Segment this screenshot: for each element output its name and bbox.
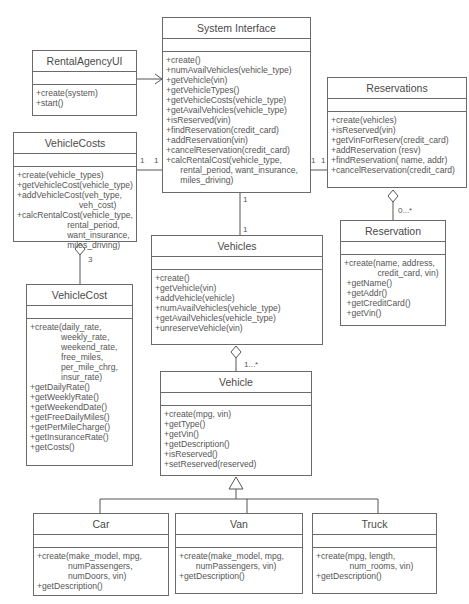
operation: +findReservation( name, addr) <box>331 155 463 165</box>
operation: weekend_rate, <box>30 342 129 352</box>
operation: weekly_rate, <box>30 332 129 342</box>
class-name: Van <box>176 514 302 535</box>
operation: +getVin() <box>164 429 308 439</box>
operation: +getCreditCard() <box>344 298 442 308</box>
class-vehicle-costs: VehicleCosts +create(vehicle_types)+getV… <box>13 132 137 242</box>
operation: +getPerMileCharge() <box>30 422 129 432</box>
operation: +cancelReservation(credit_card) <box>331 165 463 175</box>
operation: want_insurance, <box>17 230 133 240</box>
multiplicity-label: 1 <box>321 156 325 165</box>
multiplicity-label: 1 <box>140 156 144 165</box>
attributes-compartment <box>328 99 466 112</box>
operation: +getVin() <box>344 308 442 318</box>
operation: +create(name, address, <box>344 258 442 268</box>
operation: +calcRentalCost(vehicle_type, <box>166 155 307 165</box>
attributes-compartment <box>161 393 311 406</box>
operation: +addReservation(vin) <box>166 135 307 145</box>
operation: +create(system) <box>36 88 133 98</box>
attributes-compartment <box>14 154 136 167</box>
class-reservations: Reservations +create(vehicles)+isReserve… <box>327 77 467 188</box>
operation: +create(vehicle_types) <box>17 170 133 180</box>
class-name: VehicleCost <box>27 285 132 306</box>
class-vehicle-cost: VehicleCost +create(daily_rate, weekly_r… <box>26 284 133 466</box>
operation: +create(mpg, length, <box>316 551 433 561</box>
operation: +getInsuranceRate() <box>30 432 129 442</box>
operation: +isReserved() <box>164 449 308 459</box>
operation: +getCosts() <box>30 442 129 452</box>
attributes-compartment <box>27 306 132 319</box>
operations-compartment: +create(make_model, mpg, numPassengers, … <box>176 548 302 584</box>
operation: +getAvailVehicles(vehicle_type) <box>166 105 307 115</box>
operation: +numAvailVehicles(vehicle_type) <box>155 303 319 313</box>
operation: +create() <box>166 55 307 65</box>
operation: +getAvailVehicles(vehicle_type) <box>155 313 319 323</box>
class-name: Car <box>34 514 168 535</box>
operations-compartment: +create(make_model, mpg, numPassengers, … <box>34 548 168 594</box>
operation: +getAddr() <box>344 288 442 298</box>
operation: +findReservation(credit_card) <box>166 125 307 135</box>
operations-compartment: +create(mpg, vin)+getType()+getVin()+get… <box>161 406 311 472</box>
class-vehicle: Vehicle +create(mpg, vin)+getType()+getV… <box>160 371 312 476</box>
class-rental-agency-ui: RentalAgencyUI +create(system)+start() <box>32 50 137 116</box>
operation: +getVehicleCosts(vehicle_type) <box>166 95 307 105</box>
operation: +isReserved(vin) <box>166 115 307 125</box>
operation: +addVehicleCost(veh_type, <box>17 190 133 200</box>
operations-compartment: +create(mpg, length, num_rooms, vin)+get… <box>313 548 436 584</box>
multiplicity-label: 1 <box>243 225 247 234</box>
attributes-compartment <box>33 72 136 85</box>
multiplicity-label: 0...* <box>398 206 412 215</box>
class-name: VehicleCosts <box>14 133 136 154</box>
operation: numDoors, vin) <box>37 571 165 581</box>
operations-compartment: +create(daily_rate, weekly_rate, weekend… <box>27 319 132 455</box>
class-name: Vehicle <box>161 372 311 393</box>
multiplicity-label: 1 <box>243 195 247 204</box>
operation: +setReserved(reserved) <box>164 459 308 469</box>
operation: +getVehicle(vin) <box>155 283 319 293</box>
operations-compartment: +create()+numAvailVehicles(vehicle_type)… <box>163 52 310 188</box>
multiplicity-label: 1...* <box>244 360 258 369</box>
class-name: RentalAgencyUI <box>33 51 136 72</box>
operation: +getFreeDailyMiles() <box>30 412 129 422</box>
operation: +create() <box>155 273 319 283</box>
operation: +addReservation (resv) <box>331 145 463 155</box>
operation: +getDescription() <box>316 571 433 581</box>
operation: +getVinForReserv(credit_card) <box>331 135 463 145</box>
class-name: Vehicles <box>152 236 322 257</box>
operation: insur_rate) <box>30 372 129 382</box>
operation: +getWeeklyRate() <box>30 392 129 402</box>
class-van: Van +create(make_model, mpg, numPassenge… <box>175 513 303 594</box>
operation: +create(vehicles) <box>331 115 463 125</box>
generalization-triangle-icon <box>229 477 243 489</box>
operation: veh_cost) <box>17 200 133 210</box>
operation: +create(mpg, vin) <box>164 409 308 419</box>
operation: free_miles, <box>30 352 129 362</box>
operations-compartment: +create(vehicles)+isReserved(vin)+getVin… <box>328 112 466 178</box>
class-name: System Interface <box>163 18 310 39</box>
class-vehicles: Vehicles +create()+getVehicle(vin)+addVe… <box>151 235 323 345</box>
operation: credit_card, vin) <box>344 268 442 278</box>
multiplicity-label: 1 <box>311 156 315 165</box>
operations-compartment: +create()+getVehicle(vin)+addVehicle(veh… <box>152 270 322 336</box>
operation: +getWeekendDate() <box>30 402 129 412</box>
operation: +numAvailVehicles(vehicle_type) <box>166 65 307 75</box>
operation: rental_period, want_insurance, <box>166 165 307 175</box>
operations-compartment: +create(vehicle_types)+getVehicleCost(ve… <box>14 167 136 253</box>
class-name: Truck <box>313 514 436 535</box>
class-reservation: Reservation +create(name, address, credi… <box>340 220 446 326</box>
attributes-compartment <box>163 39 310 52</box>
multiplicity-label: 1 <box>154 156 158 165</box>
class-car: Car +create(make_model, mpg, numPassenge… <box>33 513 169 596</box>
multiplicity-label: 3 <box>88 255 92 264</box>
operation: +getDailyRate() <box>30 382 129 392</box>
operation: +create(make_model, mpg, <box>179 551 299 561</box>
operation: +getDescription() <box>179 571 299 581</box>
attributes-compartment <box>341 242 445 255</box>
operation: +create(daily_rate, <box>30 322 129 332</box>
operation: per_mile_chrg, <box>30 362 129 372</box>
operation: numPassengers, vin) <box>179 561 299 571</box>
operation: miles_driving) <box>166 175 307 185</box>
operation: +getDescription() <box>164 439 308 449</box>
operation: +isReserved(vin) <box>331 125 463 135</box>
operation: +getDescription() <box>37 581 165 591</box>
class-truck: Truck +create(mpg, length, num_rooms, vi… <box>312 513 437 594</box>
